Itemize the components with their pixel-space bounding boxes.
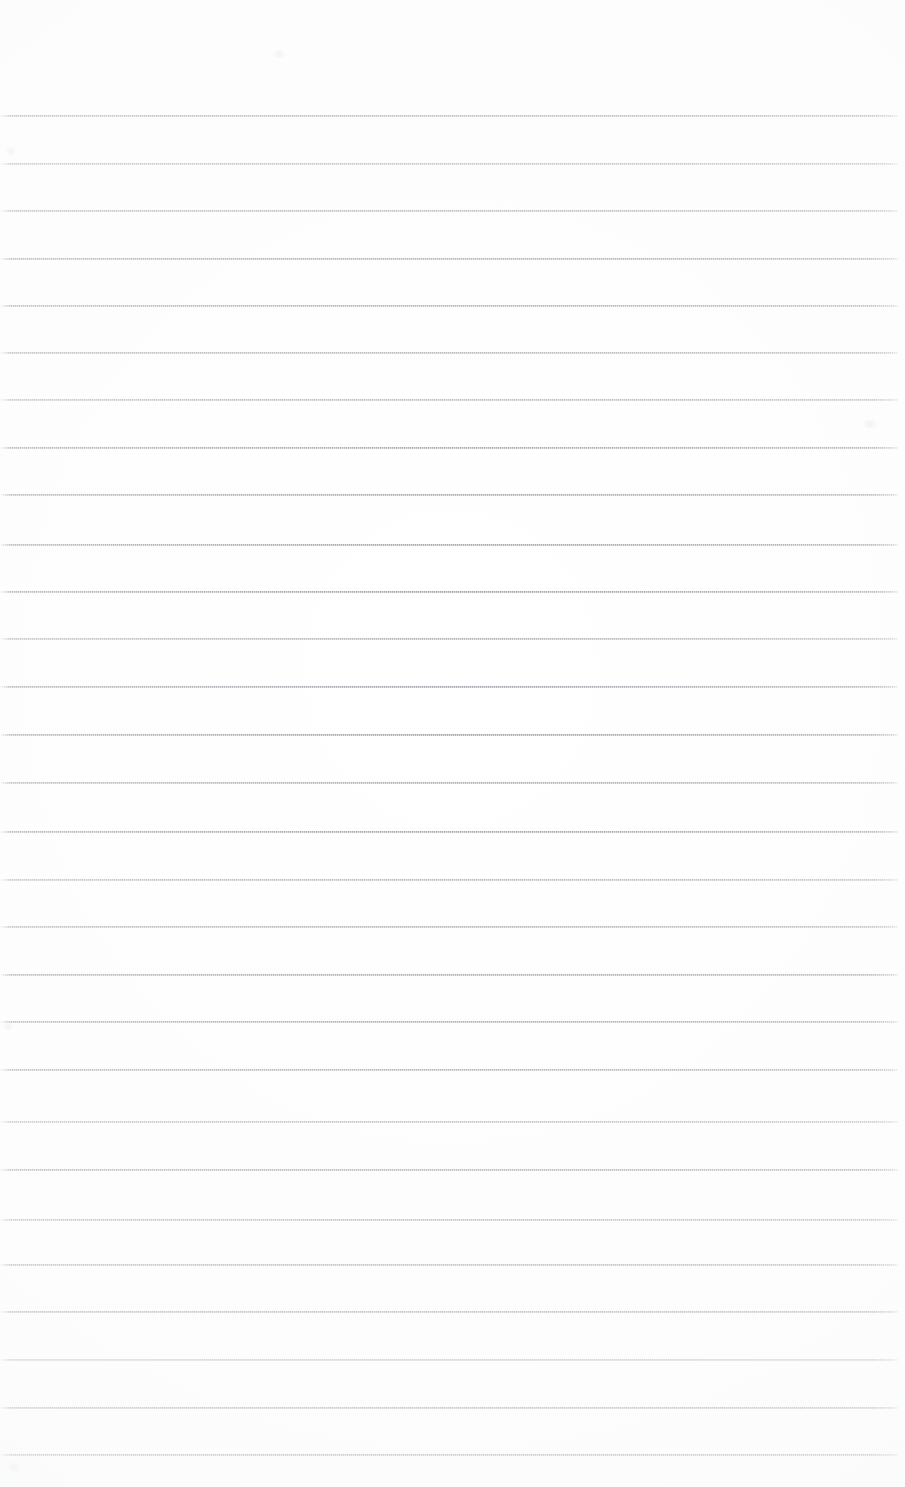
scanned-page xyxy=(0,0,905,1487)
writing-area[interactable] xyxy=(0,0,905,1487)
